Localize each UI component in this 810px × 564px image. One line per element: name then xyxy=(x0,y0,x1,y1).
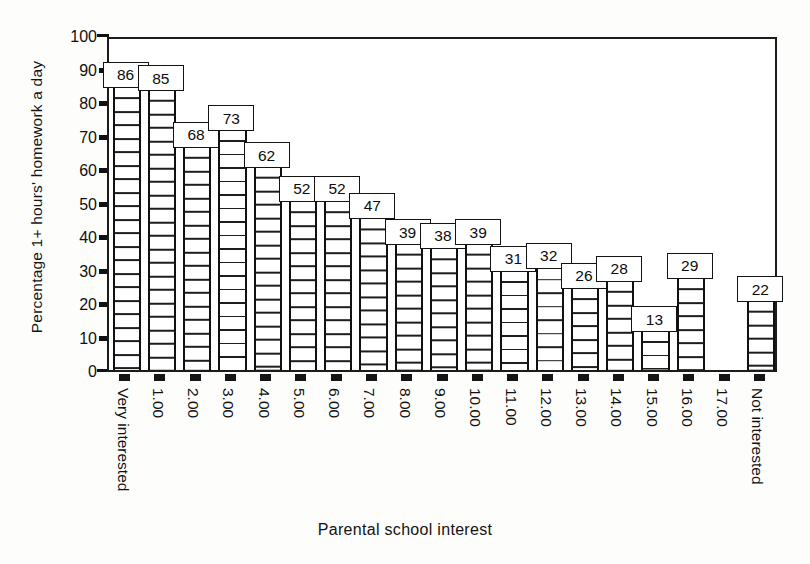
bar[interactable] xyxy=(747,296,775,370)
bar-value-label: 73 xyxy=(208,105,254,131)
x-axis-category-label: 5.00 xyxy=(291,388,307,418)
x-axis-title: Parental school interest xyxy=(0,521,810,539)
x-axis-category-label: Not interested xyxy=(750,388,766,485)
bar[interactable] xyxy=(324,196,352,370)
bar-value-label: 28 xyxy=(596,256,642,282)
x-axis-tick xyxy=(648,374,659,381)
x-axis-category-label: 11.00 xyxy=(503,388,519,426)
bar[interactable] xyxy=(641,326,669,370)
x-axis-category-label: 13.00 xyxy=(574,388,590,427)
bar-value-label: 62 xyxy=(244,142,290,168)
bar-value-label: 29 xyxy=(667,253,713,279)
bar[interactable] xyxy=(359,213,387,370)
y-axis-tick-label: 20 xyxy=(79,297,97,313)
x-axis-tick xyxy=(578,374,589,381)
x-axis-category-label: 12.00 xyxy=(538,388,554,427)
bar[interactable] xyxy=(218,125,246,370)
x-axis-category-label: Very interested xyxy=(115,388,131,491)
y-axis-tick-label: 40 xyxy=(79,230,97,246)
bar[interactable] xyxy=(536,263,564,370)
bar[interactable] xyxy=(395,239,423,370)
bar-chart-figure: Percentage 1+ hours' homework a day 0102… xyxy=(0,0,810,564)
y-axis-tick-label: 60 xyxy=(79,163,97,179)
y-axis-tick-label: 90 xyxy=(79,63,97,79)
x-axis-category-label: 16.00 xyxy=(679,388,695,427)
x-axis-category-label: 7.00 xyxy=(362,388,378,418)
x-axis-tick xyxy=(366,374,377,381)
y-axis-tick-label: 10 xyxy=(79,331,97,347)
x-axis-tick xyxy=(542,374,553,381)
y-axis-tick-label: 30 xyxy=(79,264,97,280)
bar[interactable] xyxy=(254,162,282,370)
bar-value-label: 13 xyxy=(631,306,677,332)
y-axis-tick-label: 80 xyxy=(79,96,97,112)
x-axis-category-label: 2.00 xyxy=(186,388,202,418)
x-axis-tick xyxy=(331,374,342,381)
bar[interactable] xyxy=(465,239,493,370)
bar[interactable] xyxy=(183,142,211,370)
x-axis-tick xyxy=(719,374,730,381)
bar-value-label: 22 xyxy=(737,276,783,302)
bar-value-label: 39 xyxy=(455,219,501,245)
x-axis-tick xyxy=(472,374,483,381)
x-axis-tick xyxy=(613,374,624,381)
x-axis-tick xyxy=(683,374,694,381)
x-axis-tick xyxy=(295,374,306,381)
y-axis-title: Percentage 1+ hours' homework a day xyxy=(28,22,46,372)
x-axis-tick xyxy=(190,374,201,381)
x-axis-tick xyxy=(507,374,518,381)
x-axis-tick xyxy=(754,374,765,381)
bar[interactable] xyxy=(606,276,634,370)
y-axis-tick-label: 0 xyxy=(88,364,97,380)
x-axis-category-label: 6.00 xyxy=(327,388,343,418)
y-axis-tick-label: 70 xyxy=(79,130,97,146)
x-axis-category-label: 9.00 xyxy=(433,388,449,418)
bar[interactable] xyxy=(113,82,141,370)
x-axis-tick xyxy=(260,374,271,381)
bar[interactable] xyxy=(500,266,528,370)
x-axis-category-label: 14.00 xyxy=(609,388,625,427)
x-axis-category-label: 8.00 xyxy=(397,388,413,418)
x-axis-category-label: 10.00 xyxy=(468,388,484,427)
y-axis-tick-label: 50 xyxy=(79,197,97,213)
x-axis-tick xyxy=(154,374,165,381)
x-axis-category-label: 17.00 xyxy=(715,388,731,427)
x-axis-tick xyxy=(119,374,130,381)
x-axis-tick xyxy=(401,374,412,381)
bar-value-label: 85 xyxy=(138,65,184,91)
bar[interactable] xyxy=(148,85,176,370)
x-axis-tick xyxy=(225,374,236,381)
x-axis-category-label: 1.00 xyxy=(150,388,166,418)
x-axis-category-label: 3.00 xyxy=(221,388,237,418)
bar[interactable] xyxy=(430,243,458,370)
bar[interactable] xyxy=(677,273,705,370)
bar-value-label: 47 xyxy=(349,193,395,219)
x-axis-category-label: 15.00 xyxy=(644,388,660,427)
y-axis-tick-label: 100 xyxy=(70,29,97,45)
bar[interactable] xyxy=(571,283,599,370)
x-axis-tick xyxy=(437,374,448,381)
x-axis-category-label: 4.00 xyxy=(256,388,272,418)
bar[interactable] xyxy=(289,196,317,370)
